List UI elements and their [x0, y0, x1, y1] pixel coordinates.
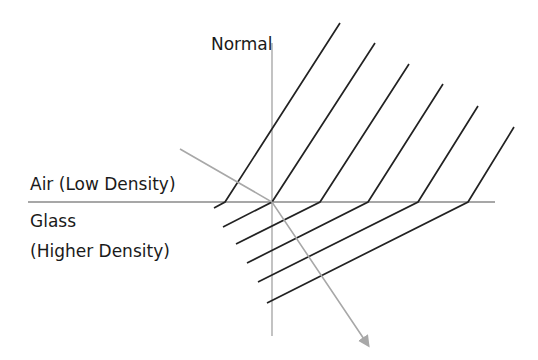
wavefront-line-5 — [258, 106, 478, 282]
refracted-ray-arrow — [180, 149, 368, 345]
wavefront-line-3 — [236, 64, 409, 244]
air-medium-label: Air (Low Density) — [30, 176, 176, 193]
wavefront-line-4 — [247, 84, 443, 263]
glass-medium-label: Glass — [30, 213, 76, 230]
normal-label: Normal — [211, 36, 273, 53]
wavefront-line-2 — [223, 43, 375, 227]
wavefronts-group — [214, 23, 514, 303]
glass-density-label: (Higher Density) — [30, 243, 170, 260]
